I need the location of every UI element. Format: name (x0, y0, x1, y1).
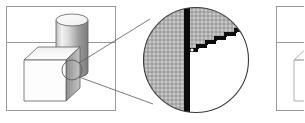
panel-frame-right (277, 7, 305, 111)
rendered-scene-panel (7, 7, 116, 111)
vertical-edge-band (184, 2, 190, 120)
figure-root (0, 0, 304, 123)
magnifier-callout (140, 2, 256, 120)
edge-highlight-dot (190, 48, 193, 51)
cube-front-face (24, 60, 66, 101)
figure-canvas (0, 0, 304, 123)
cylinder-top-ellipse (56, 14, 88, 26)
cube-shape (24, 47, 80, 101)
cube-front-face-right (294, 60, 304, 101)
cube-top-face-right (294, 47, 304, 60)
leader-line-upper (79, 19, 150, 63)
second-scene-panel (277, 7, 305, 111)
